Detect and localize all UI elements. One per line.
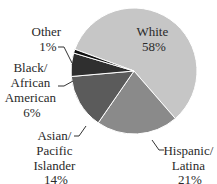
leader-line-asian [74,126,86,136]
pie-chart: White 58% Other 1% Black/ African Americ… [0,0,217,184]
label-asian-line1: Asian/ [37,128,71,143]
label-black-pct: 6% [23,105,41,120]
label-hispanic-line1: Hispanic/ [163,143,213,158]
label-black-line2: African [11,75,51,90]
label-black-line3: American [5,90,57,105]
label-black-line1: Black/ [13,60,47,75]
leader-line-other [58,47,72,63]
label-hispanic-pct: 21% [178,172,202,184]
label-other-pct: 1% [39,39,57,54]
leader-line-hispanic [152,140,164,150]
label-asian-line3: Islander [33,158,76,173]
label-hispanic: Hispanic/ Latina 21% [163,143,216,184]
label-asian: Asian/ Pacific Islander 14% [33,128,78,184]
pie-slices [71,8,197,134]
leader-line-black [58,81,73,86]
label-white-name: White [136,24,168,39]
label-other-name: Other [32,24,62,39]
label-asian-line2: Pacific [36,143,72,158]
label-black: Black/ African American 6% [5,60,60,120]
label-white-pct: 58% [142,39,166,54]
label-asian-pct: 14% [44,172,68,184]
label-other: Other 1% [32,24,65,54]
label-hispanic-line2: Latina [172,158,205,173]
